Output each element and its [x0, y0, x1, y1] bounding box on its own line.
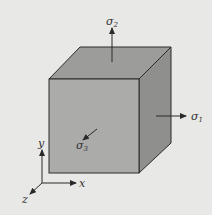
- y-axis-label: y: [37, 137, 45, 150]
- stress-cube-diagram: σ2 σ1 σ3 y x z: [0, 0, 212, 215]
- sigma2-label: σ2: [106, 15, 119, 29]
- z-axis-arrow-icon: [30, 183, 42, 194]
- x-axis-label: x: [79, 177, 86, 190]
- z-axis-label: z: [21, 193, 28, 206]
- cube: [49, 47, 171, 173]
- cube-front-face: [49, 79, 139, 173]
- sigma1-label: σ1: [191, 110, 203, 124]
